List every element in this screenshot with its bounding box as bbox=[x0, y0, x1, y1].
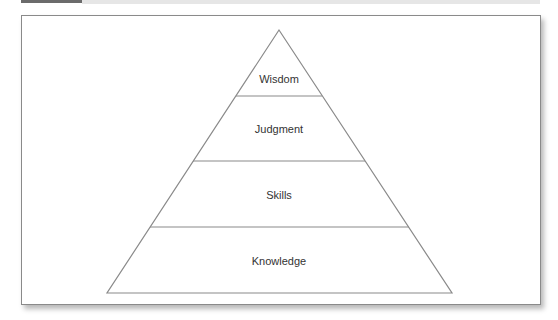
level-label-skills: Skills bbox=[266, 189, 292, 201]
level-label-judgment: Judgment bbox=[255, 123, 303, 135]
level-label-wisdom: Wisdom bbox=[259, 73, 299, 85]
pyramid-diagram bbox=[0, 0, 558, 320]
level-label-knowledge: Knowledge bbox=[252, 255, 306, 267]
